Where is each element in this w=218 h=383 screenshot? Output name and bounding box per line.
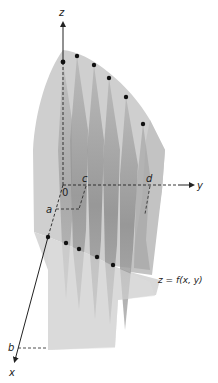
bound-label-d: d xyxy=(146,173,153,184)
bound-label-c: c xyxy=(82,173,88,184)
surface-slices-diagram: z y x 0 c d a b z = f(x, y) xyxy=(0,0,218,383)
y-axis-label: y xyxy=(196,180,204,191)
bound-label-a: a xyxy=(46,204,52,215)
x-axis xyxy=(15,237,48,360)
bound-label-b: b xyxy=(8,342,14,353)
origin-label: 0 xyxy=(62,187,68,198)
z-axis-label: z xyxy=(58,7,65,18)
x-axis-label: x xyxy=(8,367,15,378)
surface-equation-label: z = f(x, y) xyxy=(157,275,203,285)
